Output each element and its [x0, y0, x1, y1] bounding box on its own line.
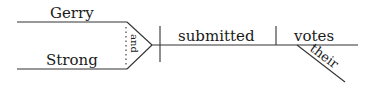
verb-word: submitted [178, 27, 255, 45]
object-word: votes [293, 27, 334, 45]
subject-word-1: Gerry [50, 4, 94, 22]
conjunction-word: and [129, 34, 140, 53]
subject-word-2: Strong [46, 51, 98, 69]
sentence-diagram: Gerry Strong and submitted votes their [0, 0, 366, 86]
